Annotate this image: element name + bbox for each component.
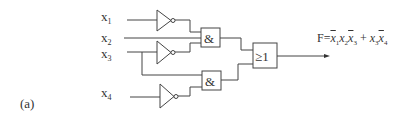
formula-plus: + bbox=[357, 31, 370, 45]
wire-not3-to-and1 bbox=[175, 43, 201, 52]
output-formula: F=x1x2x3 + x3x4 bbox=[317, 31, 387, 47]
formula-prefix: F= bbox=[317, 31, 330, 45]
and-gate-2-symbol: & bbox=[205, 74, 215, 89]
wire-not4-to-and2 bbox=[178, 87, 202, 96]
formula-term-x4-idx: 4 bbox=[384, 39, 388, 47]
wire-and2-to-or bbox=[221, 64, 253, 80]
wire-x3-branch-to-and2 bbox=[142, 52, 202, 75]
logic-circuit-diagram: & & ≥1 bbox=[0, 0, 417, 117]
not-gate-1 bbox=[157, 10, 175, 31]
wire-not1-to-and1 bbox=[175, 20, 201, 32]
not-gate-3 bbox=[157, 41, 175, 64]
output-arrow-icon bbox=[324, 54, 330, 58]
not-gate-4 bbox=[160, 84, 178, 108]
and-gate-1-symbol: & bbox=[204, 31, 214, 46]
or-gate-symbol: ≥1 bbox=[255, 49, 269, 64]
wire-and1-to-or bbox=[220, 38, 253, 50]
